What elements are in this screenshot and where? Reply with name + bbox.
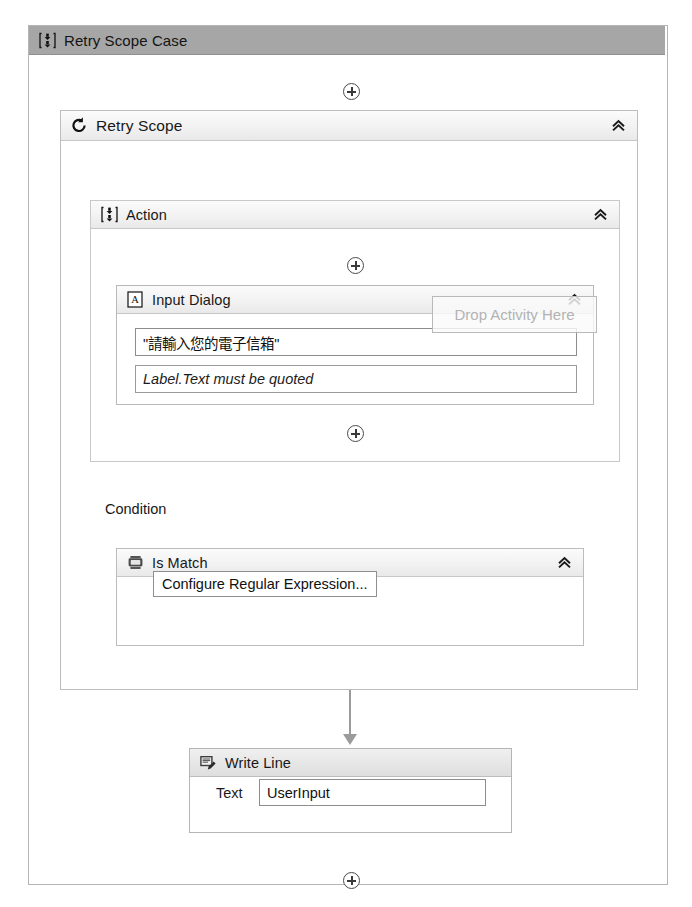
- write-line-icon: [199, 754, 217, 772]
- input-dialog-title: Input Dialog: [152, 292, 231, 308]
- configure-regular-expression-button[interactable]: Configure Regular Expression...: [153, 571, 377, 597]
- flow-arrow-down-icon: [343, 734, 357, 745]
- chevron-double-up-icon-action[interactable]: [591, 206, 609, 224]
- add-activity-icon-root-bottom[interactable]: [343, 872, 360, 889]
- is-match-title: Is Match: [152, 555, 208, 571]
- drop-activity-here-label: Drop Activity Here: [454, 306, 574, 323]
- write-line-title: Write Line: [225, 755, 291, 771]
- is-match-activity[interactable]: Is Match Configure Regular Expression...: [116, 548, 584, 646]
- svg-text:A: A: [131, 294, 139, 305]
- retry-scope-header[interactable]: Retry Scope: [61, 111, 637, 141]
- text-document-a-icon: A: [126, 291, 144, 309]
- root-sequence-header[interactable]: Retry Scope Case: [29, 26, 665, 55]
- retry-scope-title: Retry Scope: [96, 117, 182, 135]
- write-line-text-field[interactable]: UserInput: [259, 779, 486, 806]
- workflow-designer-canvas: Retry Scope Case Retry Scope: [0, 0, 692, 907]
- sequence-icon-action: [100, 206, 118, 224]
- condition-label: Condition: [105, 501, 166, 517]
- chevron-double-up-icon-is-match[interactable]: [555, 554, 573, 572]
- regex-chip-icon: [126, 554, 144, 572]
- action-sequence-title: Action: [126, 207, 167, 223]
- add-activity-icon-root-top[interactable]: [343, 83, 360, 100]
- add-activity-icon-action-bottom[interactable]: [347, 425, 364, 442]
- sequence-icon: [38, 31, 56, 49]
- flow-connector-line: [349, 690, 351, 738]
- write-line-text-label: Text: [216, 785, 243, 801]
- add-activity-icon-action-top[interactable]: [347, 257, 364, 274]
- retry-loop-icon: [70, 117, 88, 135]
- root-sequence-title: Retry Scope Case: [64, 32, 187, 49]
- chevron-double-up-icon-retry-scope[interactable]: [609, 117, 627, 135]
- dialog-label-field[interactable]: Label.Text must be quoted: [135, 365, 577, 393]
- drop-activity-here-overlay[interactable]: Drop Activity Here: [432, 296, 597, 333]
- action-sequence-header[interactable]: Action: [91, 201, 619, 229]
- write-line-header[interactable]: Write Line: [190, 749, 511, 777]
- write-line-activity[interactable]: Write Line Text UserInput: [189, 748, 512, 833]
